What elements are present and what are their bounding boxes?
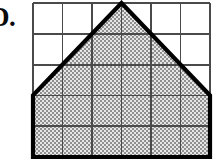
figure-grid-diagram xyxy=(0,0,213,163)
screenshot-root: D. xyxy=(0,0,213,163)
diagram-svg xyxy=(0,0,213,163)
